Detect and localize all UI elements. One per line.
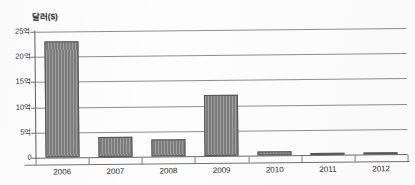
- y-axis-unit-label: 달러($): [32, 9, 58, 21]
- x-axis-tick-labels: 2006200720082009201020112012: [0, 0, 414, 2]
- bar-2006: [44, 41, 79, 157]
- x-tick-mark-6: [354, 156, 355, 162]
- x-tick-label-2012: 2012: [361, 164, 401, 173]
- y-axis-tick-labels: 05억10억15억20억25억: [0, 2, 32, 185]
- y-tick-label-20: 20억: [15, 53, 30, 61]
- x-tick-label-2008: 2008: [148, 166, 188, 175]
- bar-2008: [151, 140, 185, 157]
- y-tick-label-5: 5억: [20, 128, 31, 136]
- bar-2009: [204, 95, 239, 156]
- x-tick-mark-3: [195, 157, 196, 163]
- x-tick-mark-end: [408, 155, 409, 161]
- x-tick-label-2010: 2010: [255, 165, 295, 174]
- x-tick-mark-1: [89, 158, 90, 164]
- x-tick-label-2006: 2006: [42, 167, 82, 176]
- x-tick-mark-5: [301, 156, 302, 162]
- y-tick-label-25: 25억: [15, 28, 30, 36]
- x-tick-label-2007: 2007: [95, 167, 135, 176]
- bar-series: [34, 28, 407, 158]
- x-tick-mark-4: [248, 157, 249, 163]
- bar-2010: [258, 152, 292, 156]
- x-tick-mark-2: [142, 158, 143, 164]
- bar-2011: [311, 153, 345, 155]
- x-tick-mark-0: [36, 159, 37, 165]
- y-tick-label-15: 15억: [15, 78, 30, 86]
- plot-tilt-wrapper: 달러($) 05억10억15억20억25억 200620072008200920…: [0, 0, 415, 185]
- y-tick-label-10: 10억: [16, 103, 31, 111]
- plot-area: [34, 28, 407, 158]
- x-tick-label-2011: 2011: [308, 165, 348, 174]
- bar-chart: 달러($) 05억10억15억20억25억 200620072008200920…: [0, 0, 415, 185]
- x-tick-label-2009: 2009: [202, 166, 242, 175]
- bar-2007: [98, 137, 132, 157]
- bar-2012: [364, 152, 398, 154]
